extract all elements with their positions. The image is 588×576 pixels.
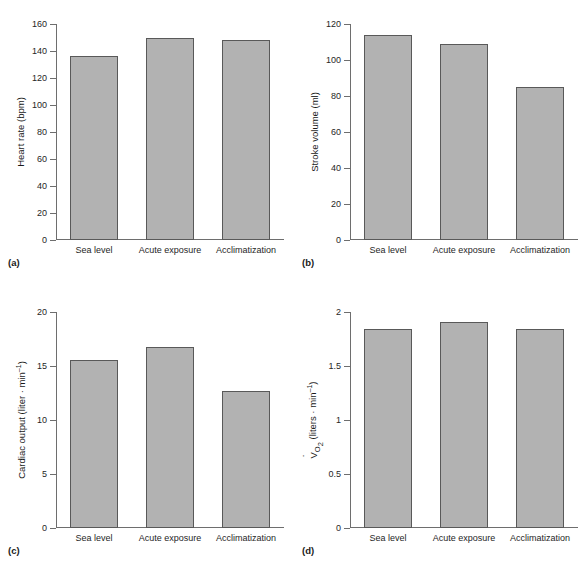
bars-b	[350, 24, 578, 240]
y-tick-mark	[50, 528, 56, 529]
y-axis-title-d: VO2 (liters · min–1)	[306, 312, 324, 528]
y-tick-label: 60	[37, 155, 47, 164]
bar	[364, 35, 412, 240]
y-tick-label: 1.5	[328, 362, 341, 371]
y-tick-label: 20	[37, 209, 47, 218]
y-tick-mark	[344, 240, 350, 241]
y-tick-label: 60	[331, 128, 341, 137]
panel-tag-a: (a)	[8, 258, 20, 268]
panel-a: Heart rate (bpm) 020406080100120140160 S…	[0, 0, 294, 288]
y-tick-label: 5	[42, 470, 47, 479]
bar	[146, 347, 194, 528]
bars-d	[350, 312, 578, 528]
bar	[364, 329, 412, 528]
x-category-label: Acclimatization	[510, 534, 570, 543]
y-tick-label: 80	[37, 128, 47, 137]
bar	[222, 391, 270, 528]
x-category-label: Sea level	[75, 534, 112, 543]
y-tick-label: 10	[37, 416, 47, 425]
y-axis-title-c: Cardiac output (liter · min–1)	[12, 312, 30, 528]
y-tick-label: 40	[37, 182, 47, 191]
y-tick-mark	[50, 240, 56, 241]
y-tick-label: 160	[32, 20, 47, 29]
bar	[70, 360, 118, 528]
panel-tag-b: (b)	[302, 258, 314, 268]
y-tick-label: 0	[336, 524, 341, 533]
panel-tag-c: (c)	[8, 546, 20, 556]
y-tick-label: 40	[331, 164, 341, 173]
bar	[222, 40, 270, 240]
x-category-label: Acute exposure	[433, 246, 496, 255]
y-tick-label: 120	[32, 74, 47, 83]
bars-c	[56, 312, 284, 528]
y-tick-label: 80	[331, 92, 341, 101]
y-axis-title-b: Stroke volume (ml)	[306, 24, 324, 240]
y-tick-label: 100	[326, 56, 341, 65]
x-category-label: Acclimatization	[510, 246, 570, 255]
y-axis-title-a: Heart rate (bpm)	[12, 24, 30, 240]
bar	[440, 322, 488, 528]
y-tick-label: 120	[326, 20, 341, 29]
y-tick-label: 0	[42, 524, 47, 533]
x-category-label: Sea level	[369, 534, 406, 543]
y-tick-label: 1	[336, 416, 341, 425]
x-category-label: Acute exposure	[139, 534, 202, 543]
panel-b: Stroke volume (ml) 020406080100120 Sea l…	[294, 0, 588, 288]
y-tick-label: 20	[331, 200, 341, 209]
x-category-label: Acclimatization	[216, 246, 276, 255]
y-axis-title-d-text: VO2 (liters · min–1)	[306, 382, 323, 459]
figure-four-panel-bar-charts: Heart rate (bpm) 020406080100120140160 S…	[0, 0, 588, 576]
x-category-label: Acute exposure	[433, 534, 496, 543]
y-tick-label: 15	[37, 362, 47, 371]
bar	[516, 87, 564, 240]
panel-tag-d: (d)	[302, 546, 314, 556]
y-tick-label: 100	[32, 101, 47, 110]
panel-d: VO2 (liters · min–1) 00.511.52 Sea level…	[294, 288, 588, 576]
plot-area-c: 05101520 Sea levelAcute exposureAcclimat…	[56, 312, 284, 528]
y-tick-label: 0.5	[328, 470, 341, 479]
y-axis-title-c-text: Cardiac output (liter · min–1)	[15, 361, 27, 479]
y-tick-label: 2	[336, 308, 341, 317]
bars-a	[56, 24, 284, 240]
panel-c: Cardiac output (liter · min–1) 05101520 …	[0, 288, 294, 576]
y-tick-label: 20	[37, 308, 47, 317]
x-category-label: Sea level	[369, 246, 406, 255]
plot-area-a: 020406080100120140160 Sea levelAcute exp…	[56, 24, 284, 240]
y-tick-label: 140	[32, 47, 47, 56]
bar	[70, 56, 118, 240]
x-category-label: Sea level	[75, 246, 112, 255]
y-tick-label: 0	[42, 236, 47, 245]
bar	[516, 329, 564, 528]
y-axis-title-b-text: Stroke volume (ml)	[310, 92, 320, 172]
plot-area-d: 00.511.52 Sea levelAcute exposureAcclima…	[350, 312, 578, 528]
x-category-label: Acute exposure	[139, 246, 202, 255]
plot-area-b: 020406080100120 Sea levelAcute exposureA…	[350, 24, 578, 240]
bar	[440, 44, 488, 240]
y-tick-mark	[344, 528, 350, 529]
x-category-label: Acclimatization	[216, 534, 276, 543]
y-axis-title-a-text: Heart rate (bpm)	[16, 97, 26, 167]
bar	[146, 38, 194, 241]
y-tick-label: 0	[336, 236, 341, 245]
